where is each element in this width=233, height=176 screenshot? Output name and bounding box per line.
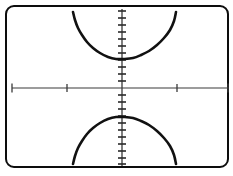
upper-hyperbola-branch (73, 12, 176, 59)
graphing-calculator-screenshot (0, 0, 233, 176)
x-axis (12, 84, 229, 93)
plot-area (0, 0, 233, 176)
lower-hyperbola-branch (73, 117, 176, 164)
